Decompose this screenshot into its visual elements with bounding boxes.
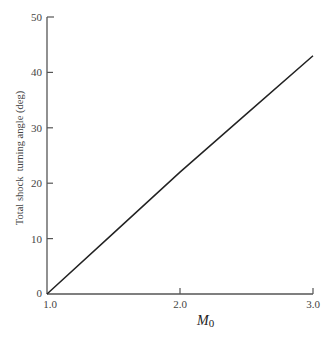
chart: 50 40 30 20 10 0 1.0 2.0 3.0 Total shock… xyxy=(0,0,332,338)
x-ticks xyxy=(180,288,313,294)
y-tick-labels: 50 40 30 20 10 0 xyxy=(31,11,43,299)
y-tick-label: 20 xyxy=(31,177,43,189)
x-tick-label: 2.0 xyxy=(173,298,187,310)
y-axis-title: Total shock turning angle (deg) xyxy=(14,90,26,225)
x-tick-label: 3.0 xyxy=(306,298,320,310)
y-tick-label: 40 xyxy=(31,66,43,78)
y-tick-label: 0 xyxy=(37,287,43,299)
data-line xyxy=(47,56,313,294)
y-tick-label: 10 xyxy=(31,233,43,245)
x-tick-label: 1.0 xyxy=(43,298,57,310)
x-tick-labels: 1.0 2.0 3.0 xyxy=(43,298,320,310)
x-axis-title: M0 xyxy=(196,313,215,329)
y-tick-label: 50 xyxy=(31,11,43,23)
y-ticks xyxy=(47,17,54,239)
y-tick-label: 30 xyxy=(31,122,43,134)
x-axis-title-sub: 0 xyxy=(209,317,215,329)
